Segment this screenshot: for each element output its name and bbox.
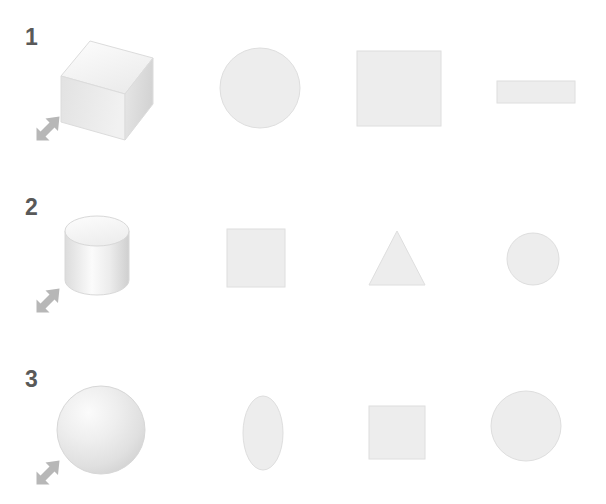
solid-cylinder: [63, 214, 131, 298]
diagram-row-2: 2: [0, 170, 606, 340]
view-shape-circle: [219, 47, 301, 129]
view-shape-circle: [490, 390, 562, 462]
diagram-canvas: 1: [0, 0, 606, 504]
view-shape-square: [368, 405, 426, 460]
view-shape-circle: [506, 232, 560, 286]
view-shape-ellipse: [242, 395, 284, 471]
view-shape-thin-rectangle: [496, 80, 576, 104]
diagram-row-3: 3: [0, 340, 606, 504]
view-shape-square: [356, 50, 442, 127]
view-shape-triangle: [367, 229, 427, 287]
view-direction-arrow: [34, 286, 64, 314]
solid-cube: [52, 30, 162, 145]
row-number-label-2: 2: [25, 196, 38, 219]
solid-sphere: [56, 385, 146, 475]
row-number-label-1: 1: [25, 26, 38, 49]
diagram-row-1: 1: [0, 0, 606, 170]
view-shape-square: [226, 228, 286, 288]
row-number-label-3: 3: [25, 368, 38, 391]
